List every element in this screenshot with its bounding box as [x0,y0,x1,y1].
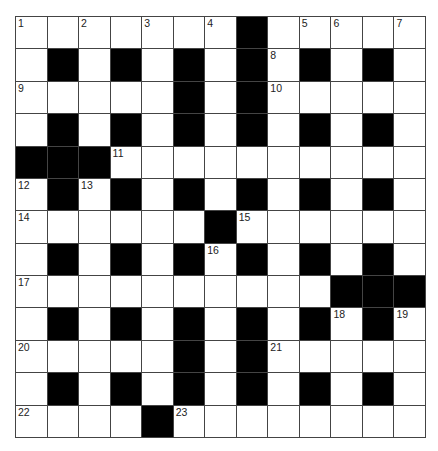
answer-cell[interactable] [48,276,80,308]
answer-cell[interactable] [205,49,237,81]
answer-cell[interactable]: 11 [111,147,143,179]
answer-cell[interactable] [363,406,395,438]
answer-cell[interactable] [111,82,143,114]
answer-cell[interactable] [48,82,80,114]
answer-cell[interactable]: 4 [205,17,237,49]
answer-cell[interactable] [268,179,300,211]
answer-cell[interactable] [331,373,363,405]
answer-cell[interactable] [394,373,426,405]
answer-cell[interactable]: 7 [394,17,426,49]
answer-cell[interactable] [16,114,48,146]
answer-cell[interactable] [174,17,206,49]
answer-cell[interactable] [142,179,174,211]
answer-cell[interactable]: 3 [142,17,174,49]
answer-cell[interactable]: 8 [268,49,300,81]
answer-cell[interactable] [205,82,237,114]
answer-cell[interactable]: 13 [79,179,111,211]
answer-cell[interactable] [16,308,48,340]
answer-cell[interactable] [300,82,332,114]
answer-cell[interactable] [331,179,363,211]
answer-cell[interactable] [79,49,111,81]
answer-cell[interactable] [205,179,237,211]
answer-cell[interactable]: 12 [16,179,48,211]
answer-cell[interactable] [268,211,300,243]
answer-cell[interactable] [111,17,143,49]
answer-cell[interactable]: 1 [16,17,48,49]
answer-cell[interactable] [79,244,111,276]
answer-cell[interactable] [394,211,426,243]
answer-cell[interactable]: 18 [331,308,363,340]
answer-cell[interactable] [300,147,332,179]
answer-cell[interactable] [331,49,363,81]
answer-cell[interactable] [394,147,426,179]
answer-cell[interactable] [363,17,395,49]
answer-cell[interactable]: 6 [331,17,363,49]
answer-cell[interactable]: 14 [16,211,48,243]
answer-cell[interactable] [363,341,395,373]
answer-cell[interactable] [205,308,237,340]
answer-cell[interactable] [268,276,300,308]
answer-cell[interactable] [16,373,48,405]
answer-cell[interactable] [48,406,80,438]
answer-cell[interactable] [205,373,237,405]
answer-cell[interactable]: 22 [16,406,48,438]
answer-cell[interactable]: 19 [394,308,426,340]
answer-cell[interactable] [268,244,300,276]
answer-cell[interactable] [300,341,332,373]
answer-cell[interactable] [79,308,111,340]
answer-cell[interactable] [331,114,363,146]
answer-cell[interactable] [16,244,48,276]
answer-cell[interactable] [300,406,332,438]
answer-cell[interactable] [268,17,300,49]
answer-cell[interactable] [331,406,363,438]
answer-cell[interactable] [79,373,111,405]
answer-cell[interactable] [363,211,395,243]
answer-cell[interactable]: 5 [300,17,332,49]
answer-cell[interactable] [79,276,111,308]
answer-cell[interactable] [79,406,111,438]
answer-cell[interactable] [268,308,300,340]
answer-cell[interactable] [142,82,174,114]
answer-cell[interactable] [142,211,174,243]
answer-cell[interactable] [205,114,237,146]
answer-cell[interactable]: 15 [237,211,269,243]
answer-cell[interactable] [394,179,426,211]
answer-cell[interactable] [331,147,363,179]
answer-cell[interactable] [300,276,332,308]
answer-cell[interactable] [268,373,300,405]
answer-cell[interactable] [48,211,80,243]
answer-cell[interactable] [174,276,206,308]
answer-cell[interactable] [394,114,426,146]
answer-cell[interactable] [205,276,237,308]
answer-cell[interactable]: 20 [16,341,48,373]
answer-cell[interactable]: 23 [174,406,206,438]
answer-cell[interactable] [174,211,206,243]
answer-cell[interactable] [394,82,426,114]
answer-cell[interactable] [394,406,426,438]
answer-cell[interactable] [268,147,300,179]
answer-cell[interactable] [237,276,269,308]
answer-cell[interactable] [111,341,143,373]
answer-cell[interactable] [16,49,48,81]
answer-cell[interactable] [79,114,111,146]
answer-cell[interactable] [363,147,395,179]
answer-cell[interactable]: 2 [79,17,111,49]
answer-cell[interactable] [237,147,269,179]
answer-cell[interactable] [142,373,174,405]
answer-cell[interactable] [331,82,363,114]
answer-cell[interactable] [142,49,174,81]
answer-cell[interactable] [205,147,237,179]
answer-cell[interactable] [174,147,206,179]
answer-cell[interactable] [331,341,363,373]
answer-cell[interactable] [331,244,363,276]
answer-cell[interactable] [363,82,395,114]
answer-cell[interactable] [268,114,300,146]
answer-cell[interactable] [142,308,174,340]
answer-cell[interactable] [394,244,426,276]
answer-cell[interactable] [300,211,332,243]
answer-cell[interactable] [268,406,300,438]
answer-cell[interactable] [48,341,80,373]
answer-cell[interactable]: 16 [205,244,237,276]
answer-cell[interactable] [142,276,174,308]
answer-cell[interactable] [111,276,143,308]
